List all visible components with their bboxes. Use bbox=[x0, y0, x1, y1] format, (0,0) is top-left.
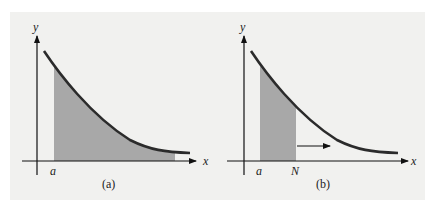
tick-label-a: a bbox=[50, 164, 56, 178]
caption-b: (b) bbox=[316, 177, 330, 191]
panel-b: y x a N (b) bbox=[227, 20, 417, 191]
x-label-b: x bbox=[410, 154, 417, 168]
tick-label-n: N bbox=[290, 164, 300, 178]
improper-integral-figure: y x a (a) y x a N (b) bbox=[0, 0, 431, 208]
tick-label-a-b: a bbox=[256, 164, 262, 178]
shaded-area-b bbox=[260, 66, 296, 161]
x-label-a: x bbox=[202, 154, 209, 168]
shaded-area-a bbox=[54, 66, 175, 161]
y-label-b: y bbox=[239, 20, 246, 34]
y-label-a: y bbox=[32, 20, 39, 34]
panel-a: y x a (a) bbox=[22, 20, 209, 191]
caption-a: (a) bbox=[102, 177, 115, 191]
